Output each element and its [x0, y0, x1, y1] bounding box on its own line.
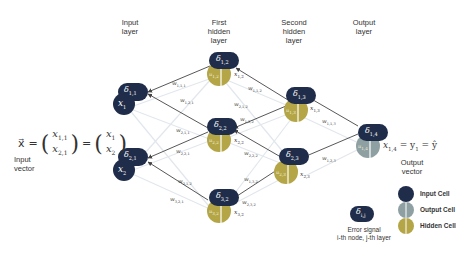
output-vector-equation: x1,4 = y1 = ŷ	[383, 140, 437, 152]
delta-1-4: δ1,4	[365, 126, 378, 137]
x-3-2: x3,2	[234, 208, 244, 217]
u-2-3: u2,3	[276, 169, 286, 177]
weight-1-1-1: w1,1,1	[172, 80, 186, 88]
x-1-2: x1,2	[234, 70, 244, 79]
layer-title-hidden2: Second hidden layer	[272, 18, 316, 45]
matrix-1: x1,1 x2,1	[52, 128, 67, 158]
layer-title-input: Input layer	[108, 18, 152, 36]
weight-3-1-2: w3,1,2	[178, 178, 192, 186]
layer-title-output: Output layer	[342, 18, 386, 36]
weight-1-3-2: w1,3,2	[244, 176, 258, 184]
x-2: x2	[118, 164, 126, 176]
matrix-2: x1 x2	[106, 128, 115, 158]
delta-2-1: δ2,1	[124, 150, 137, 161]
weight-2-2-2: w2,2,2	[244, 150, 258, 158]
input-vector-label: Input vector	[14, 155, 34, 173]
weight-1-1-3: w1,1,3	[322, 118, 336, 126]
u-2-2: u2,2	[209, 137, 219, 145]
weight-1-2-2: w1,2,2	[240, 116, 254, 124]
legend-delta: δi,j	[356, 207, 366, 218]
legend-input-cell: Input Cell	[420, 190, 450, 197]
weight-2-3-2: w2,3,2	[242, 199, 256, 207]
x-1-3: x1,3	[310, 104, 320, 113]
delta-1-2: δ1,2	[216, 54, 229, 65]
delta-2-3: δ2,3	[286, 150, 299, 161]
x-2-3: x2,3	[300, 170, 310, 179]
weight-1-2-1: w1,2,1	[180, 97, 194, 105]
delta-1-1: δ1,1	[124, 85, 137, 96]
legend-output-cell: Output Cell	[420, 206, 455, 213]
weight-2-1-1: w2,1,1	[176, 127, 190, 135]
weight-1-1-2: w1,1,2	[248, 85, 262, 93]
weight-1-2-3: w1,2,3	[322, 155, 336, 163]
x-1: x1	[118, 98, 126, 110]
x-2-2: x2,2	[234, 136, 244, 145]
u-3-2: u3,2	[209, 208, 219, 216]
delta-2-2: δ2,2	[214, 120, 227, 131]
input-vector-equation: x⃗ = ( x1,1 x2,1 ) = ( x1 x2 )	[18, 128, 127, 158]
weight-2-2-1: w2,2,1	[176, 148, 190, 156]
legend-hidden-cell: Hidden Cell	[420, 222, 456, 229]
u-1-4: u1,4	[358, 143, 368, 151]
weight-2-1-2: w2,1,2	[234, 101, 248, 109]
equation-lhs: x⃗ =	[18, 137, 38, 150]
u-1-3: u1,3	[286, 107, 296, 115]
delta-3-2: δ3,2	[216, 191, 229, 202]
legend-error-signal: Error signal i-th node, j-th layer	[330, 226, 398, 242]
paren-open: (	[41, 131, 50, 156]
layer-title-hidden1: First hidden layer	[197, 18, 241, 45]
weight-3-2-1: w3,2,1	[170, 196, 184, 204]
u-1-2: u1,2	[209, 71, 219, 79]
output-vector-label: Output vector	[392, 158, 432, 176]
delta-1-3: δ1,3	[293, 89, 306, 100]
